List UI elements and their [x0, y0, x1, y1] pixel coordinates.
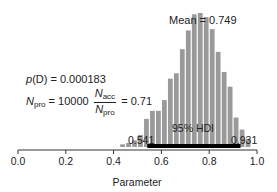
- x-axis-label: Parameter: [112, 176, 161, 188]
- x-tick-label: 0.8: [202, 155, 217, 167]
- nacc-symbol: N: [95, 87, 103, 99]
- histogram-bar: [156, 111, 161, 147]
- histogram-bar: [162, 100, 167, 147]
- npro-annotation: Npro = 10000 Nacc Npro = 0.71: [26, 88, 152, 117]
- nacc-subscript: acc: [103, 92, 115, 101]
- x-tick-label: 0.4: [106, 155, 121, 167]
- histogram-bar: [216, 52, 221, 147]
- x-tick-label: 0.2: [58, 155, 73, 167]
- histogram-bar: [168, 79, 173, 147]
- npro-den-symbol: N: [95, 103, 103, 115]
- x-tick-label: 1.0: [250, 155, 265, 167]
- fraction-numerator: Nacc: [94, 88, 116, 103]
- x-axis: [18, 150, 257, 154]
- mean-label: Mean = 0.749: [169, 15, 237, 26]
- hdi-label: 95% HDI: [172, 123, 214, 134]
- pD-annotation: p(D) = 0.000183: [26, 74, 106, 85]
- hdi-low-label: 0.541: [128, 135, 154, 146]
- npro-symbol: N: [26, 95, 34, 107]
- pD-value: = 0.000183: [47, 73, 105, 85]
- x-tick-label: 0.0: [11, 155, 26, 167]
- x-tick-label: 0.6: [154, 155, 169, 167]
- npro-subscript: pro: [34, 100, 46, 109]
- npro-den-subscript: pro: [103, 108, 115, 117]
- histogram-bar: [174, 73, 179, 147]
- npro-value: = 10000: [46, 95, 89, 107]
- hdi-high-label: 0.931: [231, 135, 257, 146]
- histogram-bar: [222, 72, 227, 147]
- acceptance-ratio-value: = 0.71: [118, 95, 152, 107]
- histogram-bar: [120, 144, 125, 147]
- acceptance-fraction: Nacc Npro: [94, 88, 116, 117]
- fraction-denominator: Npro: [94, 103, 116, 117]
- pD-arg: (D): [32, 73, 47, 85]
